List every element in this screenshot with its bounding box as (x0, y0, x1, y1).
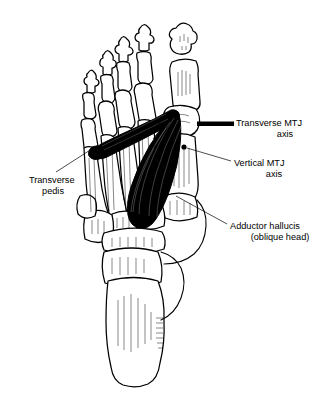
phalanges-toe-3 (115, 37, 135, 129)
label-vertical-mtj-line2: axis (266, 169, 283, 179)
label-adductor-line1: Adductor hallucis (230, 221, 300, 231)
label-transverse-pedis-line2: pedis (42, 186, 64, 196)
label-transverse-mtj-line1: Transverse MTJ (236, 118, 302, 128)
transverse-mtj-axis-bar (197, 122, 234, 127)
foot-anatomy-figure: Transverse MTJ axis Vertical MTJ axis Ad… (0, 0, 335, 414)
vertical-mtj-axis-dot (181, 144, 186, 149)
calcaneus (106, 278, 164, 387)
phalanges-toe-2 (134, 25, 156, 125)
label-transverse-pedis-line1: Transverse (29, 175, 75, 185)
label-transverse-mtj-line2: axis (277, 129, 294, 139)
label-adductor-line2: (oblique head) (251, 232, 310, 242)
phalanges-toe-1-hallux (169, 23, 200, 112)
label-vertical-mtj-line1: Vertical MTJ (234, 158, 285, 168)
medial-cuneiform (163, 193, 198, 221)
fifth-metatarsal-tuberosity (77, 195, 97, 219)
